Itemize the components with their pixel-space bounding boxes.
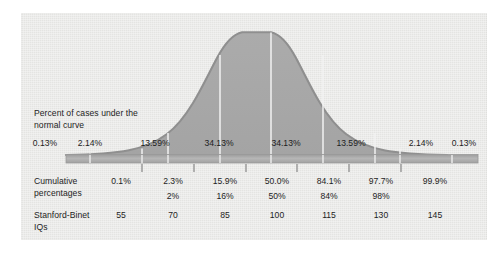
cumulative-precise-value: 15.9%	[213, 176, 237, 186]
curve-caption-line2: normal curve	[34, 120, 138, 132]
band-percent-label: 0.13%	[452, 138, 476, 148]
band-percent-label: 0.13%	[33, 138, 57, 148]
curve-fill-path	[66, 32, 447, 155]
band-percent-label: 34.13%	[271, 138, 300, 148]
cumulative-precise-value: 84.1%	[317, 176, 341, 186]
iq-score-value: 70	[168, 210, 178, 220]
cumulative-rounded-value: 84%	[320, 191, 337, 201]
iq-score-value: 145	[428, 210, 442, 220]
stanford-binet-row-label: Stanford-Binet IQs	[34, 210, 90, 234]
cumulative-precise-value: 50.0%	[265, 176, 289, 186]
normal-curve-figure: Percent of cases under the normal curve …	[0, 0, 504, 258]
iq-score-value: 55	[116, 210, 126, 220]
cumulative-rounded-value: 98%	[372, 191, 389, 201]
stanford-binet-label-line1: Stanford-Binet	[34, 210, 90, 222]
cumulative-label-line2: percentages	[34, 188, 82, 200]
band-percent-label: 2.14%	[78, 138, 102, 148]
cumulative-precise-value: 97.7%	[369, 176, 393, 186]
axis-baseline-bar	[66, 155, 478, 164]
curve-caption-line1: Percent of cases under the	[34, 108, 138, 120]
band-percent-label: 2.14%	[409, 138, 433, 148]
iq-score-value: 85	[220, 210, 230, 220]
cumulative-percentages-row-label: Cumulative percentages	[34, 176, 82, 200]
cumulative-precise-value: 99.9%	[423, 176, 447, 186]
cumulative-rounded-value: 16%	[216, 191, 233, 201]
band-percent-label: 13.59%	[336, 138, 365, 148]
cumulative-rounded-value: 50%	[268, 191, 285, 201]
cumulative-precise-value: 0.1%	[111, 176, 131, 186]
sd-divider-lines	[90, 33, 452, 155]
iq-score-value: 130	[374, 210, 388, 220]
iq-score-value: 115	[322, 210, 336, 220]
cumulative-label-line1: Cumulative	[34, 176, 82, 188]
iq-score-value: 100	[270, 210, 284, 220]
band-percent-label: 13.59%	[140, 138, 169, 148]
axis-tick-marks	[142, 164, 401, 172]
curve-caption: Percent of cases under the normal curve	[34, 108, 138, 132]
band-percent-label: 34.13%	[204, 138, 233, 148]
cumulative-precise-value: 2.3%	[163, 176, 183, 186]
stanford-binet-label-line2: IQs	[34, 222, 90, 234]
cumulative-rounded-value: 2%	[167, 191, 179, 201]
